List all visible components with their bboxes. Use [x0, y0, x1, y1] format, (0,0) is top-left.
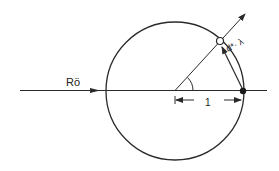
- incident-beam-label: Rö: [66, 76, 80, 88]
- radius-label: 1: [205, 97, 211, 108]
- reflection-point: [217, 38, 224, 45]
- diffracted-ray: [175, 14, 245, 91]
- origin-point: [240, 88, 246, 94]
- reciprocal-vector-label: d*· λ: [224, 36, 245, 54]
- ewald-diagram: Rö 1 d*· λ: [0, 0, 279, 171]
- beam-arrow-icon: [90, 88, 100, 93]
- angle-arc: [188, 78, 194, 91]
